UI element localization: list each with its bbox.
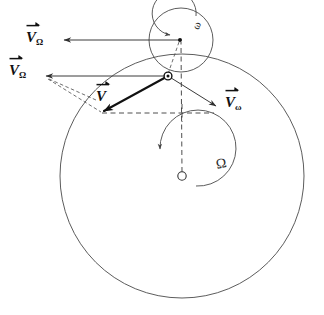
label-v-omega-low-subscript: ω [235,102,242,112]
dashed-parallelogram-side [48,79,101,112]
figure-canvas [0,0,324,315]
label-v-omega-cap-mid-subscript: Ω [19,70,26,80]
label-v-omega-low-symbol: V [225,94,235,110]
vector-arrow-accent-icon [9,53,24,61]
label-v-omega-cap-top: VΩ [26,29,43,47]
vector-v-resultant [104,76,168,111]
vector-arrow-accent-icon [96,79,111,87]
center-point-marker [178,172,186,180]
label-v-omega-cap-top-symbol: V [26,29,36,45]
spin-arc-large-omega [160,110,236,186]
label-v-omega-low: Vω [225,94,242,112]
label-v-resultant-symbol: V [96,88,106,104]
label-v-omega-cap-mid: VΩ [9,62,26,80]
hub-point-marker [178,38,182,42]
velocity-composition-diagram: VΩ VΩ V Vω ω [0,0,324,315]
label-v-resultant: V [96,88,106,106]
dashed-parallelogram-side-upper [49,79,96,100]
vector-arrow-accent-icon [225,85,240,93]
vector-arrow-accent-icon [26,20,41,28]
particle-dot [167,75,170,78]
label-v-omega-cap-mid-symbol: V [9,62,19,78]
label-v-omega-cap-top-subscript: Ω [36,37,43,47]
dashed-radius-small [168,42,179,74]
vector-v-omega-low [168,76,216,106]
